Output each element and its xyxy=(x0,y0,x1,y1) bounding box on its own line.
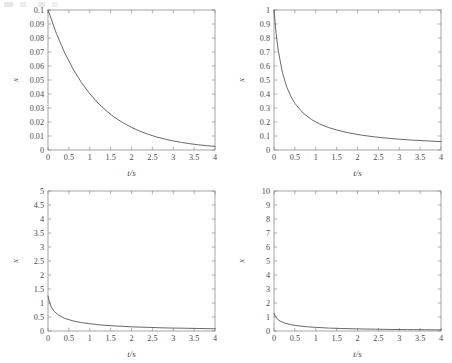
x-tick-label: 3.5 xyxy=(189,153,199,162)
x-tick-label: 2 xyxy=(129,334,133,343)
x-tick-label: 4 xyxy=(213,153,217,162)
x-tick-label: 1 xyxy=(314,153,318,162)
plot-svg-top-left: 00.511.522.533.5400.010.020.030.040.050.… xyxy=(0,0,226,181)
y-tick-label: 0.04 xyxy=(30,90,44,99)
x-tick-label: 1 xyxy=(314,334,318,343)
x-tick-label: 0 xyxy=(272,334,276,343)
y-tick-label: 0.4 xyxy=(260,90,270,99)
x-tick-label: 2 xyxy=(129,153,133,162)
y-tick-label: 1 xyxy=(40,299,44,308)
plot-svg-bottom-right: 00.511.522.533.54012345678910t/sx xyxy=(226,181,452,362)
x-tick-label: 3 xyxy=(171,153,175,162)
y-tick-label: 5 xyxy=(40,187,44,196)
x-tick-label: 1.5 xyxy=(332,334,342,343)
y-tick-label: 8 xyxy=(266,215,270,224)
data-curve xyxy=(48,296,215,329)
plot-frame xyxy=(274,191,441,331)
y-tick-label: 0.9 xyxy=(260,20,270,29)
x-tick-label: 2 xyxy=(355,334,359,343)
x-tick-label: 4 xyxy=(439,153,443,162)
y-tick-label: 0.06 xyxy=(30,62,44,71)
plot-frame xyxy=(48,10,215,150)
y-tick-label: 0.07 xyxy=(30,48,44,57)
x-tick-label: 3.5 xyxy=(415,153,425,162)
x-tick-label: 2.5 xyxy=(373,153,383,162)
x-tick-label: 3.5 xyxy=(415,334,425,343)
x-tick-label: 3.5 xyxy=(189,334,199,343)
x-tick-label: 0 xyxy=(272,153,276,162)
y-tick-label: 6 xyxy=(266,243,270,252)
data-curve xyxy=(48,10,215,146)
y-axis-title: x xyxy=(10,78,20,83)
y-axis-title: x xyxy=(236,78,246,83)
axes-top-right: 00.511.522.533.5400.10.20.30.40.50.60.70… xyxy=(236,6,443,178)
y-tick-label: 0.6 xyxy=(260,62,270,71)
y-tick-label: 0.8 xyxy=(260,34,270,43)
axes-bottom-left: 00.511.522.533.5400.511.522.533.544.55t/… xyxy=(10,187,217,359)
x-tick-label: 0.5 xyxy=(290,153,300,162)
x-tick-label: 1.5 xyxy=(332,153,342,162)
y-tick-label: 0.02 xyxy=(30,118,44,127)
x-tick-label: 3 xyxy=(171,334,175,343)
x-tick-label: 0 xyxy=(46,153,50,162)
y-tick-label: 4 xyxy=(40,215,44,224)
y-tick-label: 0.5 xyxy=(260,76,270,85)
axes-bottom-right: 00.511.522.533.54012345678910t/sx xyxy=(236,187,443,359)
plot-panel-bottom-left: 00.511.522.533.5400.511.522.533.544.55t/… xyxy=(0,181,226,362)
data-curve xyxy=(274,314,441,330)
data-curve xyxy=(274,10,441,142)
y-tick-label: 3 xyxy=(40,243,44,252)
y-tick-label: 3.5 xyxy=(34,229,44,238)
x-tick-label: 0.5 xyxy=(64,334,74,343)
y-tick-label: 1.5 xyxy=(34,285,44,294)
x-tick-label: 1 xyxy=(88,334,92,343)
x-tick-label: 2.5 xyxy=(147,153,157,162)
y-tick-label: 0.08 xyxy=(30,34,44,43)
x-tick-label: 0.5 xyxy=(290,334,300,343)
x-tick-label: 3 xyxy=(397,334,401,343)
x-tick-label: 3 xyxy=(397,153,401,162)
x-tick-label: 2.5 xyxy=(147,334,157,343)
x-tick-label: 1 xyxy=(88,153,92,162)
y-tick-label: 0.5 xyxy=(34,313,44,322)
y-tick-label: 0.05 xyxy=(30,76,44,85)
plot-panel-top-left: 00.511.522.533.5400.010.020.030.040.050.… xyxy=(0,0,226,181)
y-tick-label: 0.1 xyxy=(260,132,270,141)
figure-canvas: 00.511.522.533.5400.010.020.030.040.050.… xyxy=(0,0,452,363)
x-tick-label: 4 xyxy=(213,334,217,343)
y-tick-label: 0.7 xyxy=(260,48,270,57)
y-tick-label: 0 xyxy=(40,146,44,155)
x-tick-label: 2 xyxy=(355,153,359,162)
x-tick-label: 1.5 xyxy=(106,153,116,162)
y-tick-label: 1 xyxy=(266,313,270,322)
y-tick-label: 4 xyxy=(266,271,270,280)
y-tick-label: 10 xyxy=(262,187,270,196)
y-tick-label: 0.09 xyxy=(30,20,44,29)
y-axis-title: x xyxy=(10,259,20,264)
y-tick-label: 0.2 xyxy=(260,118,270,127)
plot-frame xyxy=(48,191,215,331)
x-axis-title: t/s xyxy=(353,349,362,359)
plot-frame xyxy=(274,10,441,150)
plot-svg-bottom-left: 00.511.522.533.5400.511.522.533.544.55t/… xyxy=(0,181,226,362)
y-tick-label: 0 xyxy=(266,327,270,336)
y-tick-label: 1 xyxy=(266,6,270,15)
x-tick-label: 1.5 xyxy=(106,334,116,343)
x-tick-label: 4 xyxy=(439,334,443,343)
x-tick-label: 0 xyxy=(46,334,50,343)
plot-panel-bottom-right: 00.511.522.533.54012345678910t/sx xyxy=(226,181,452,362)
y-tick-label: 2 xyxy=(266,299,270,308)
y-tick-label: 0 xyxy=(266,146,270,155)
y-tick-label: 0.3 xyxy=(260,104,270,113)
x-axis-title: t/s xyxy=(353,168,362,178)
x-axis-title: t/s xyxy=(127,349,136,359)
y-tick-label: 0.03 xyxy=(30,104,44,113)
y-tick-label: 9 xyxy=(266,201,270,210)
axes-top-left: 00.511.522.533.5400.010.020.030.040.050.… xyxy=(10,6,217,178)
y-tick-label: 4.5 xyxy=(34,201,44,210)
y-tick-label: 5 xyxy=(266,257,270,266)
y-tick-label: 0.01 xyxy=(30,132,44,141)
x-axis-title: t/s xyxy=(127,168,136,178)
plot-panel-top-right: 00.511.522.533.5400.10.20.30.40.50.60.70… xyxy=(226,0,452,181)
y-tick-label: 2.5 xyxy=(34,257,44,266)
